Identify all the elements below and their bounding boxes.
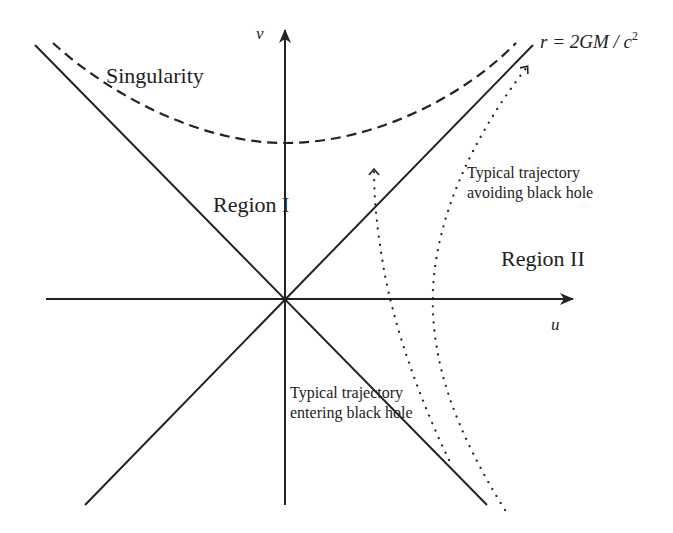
entering-label-line2: entering black hole (290, 404, 413, 422)
region-1-label: Region I (213, 192, 289, 217)
event-horizon-line (85, 45, 533, 505)
avoiding-label-line1: Typical trajectory (467, 164, 580, 182)
light-cone-line-descending (35, 45, 487, 505)
entering-label-line1: Typical trajectory (290, 384, 403, 402)
region-2-label: Region II (501, 246, 585, 271)
singularity-label: Singularity (106, 63, 204, 88)
horizon-label-exponent: 2 (632, 29, 638, 43)
u-axis-label: u (551, 315, 560, 334)
avoiding-label-line2: avoiding black hole (467, 184, 593, 202)
horizon-label: r = 2GM / c2 (540, 29, 638, 52)
horizon-label-base: r = 2GM / c (540, 31, 633, 52)
v-axis-label: v (256, 24, 264, 43)
spacetime-diagram: v u Singularity r = 2GM / c2 Region I Re… (0, 0, 673, 533)
